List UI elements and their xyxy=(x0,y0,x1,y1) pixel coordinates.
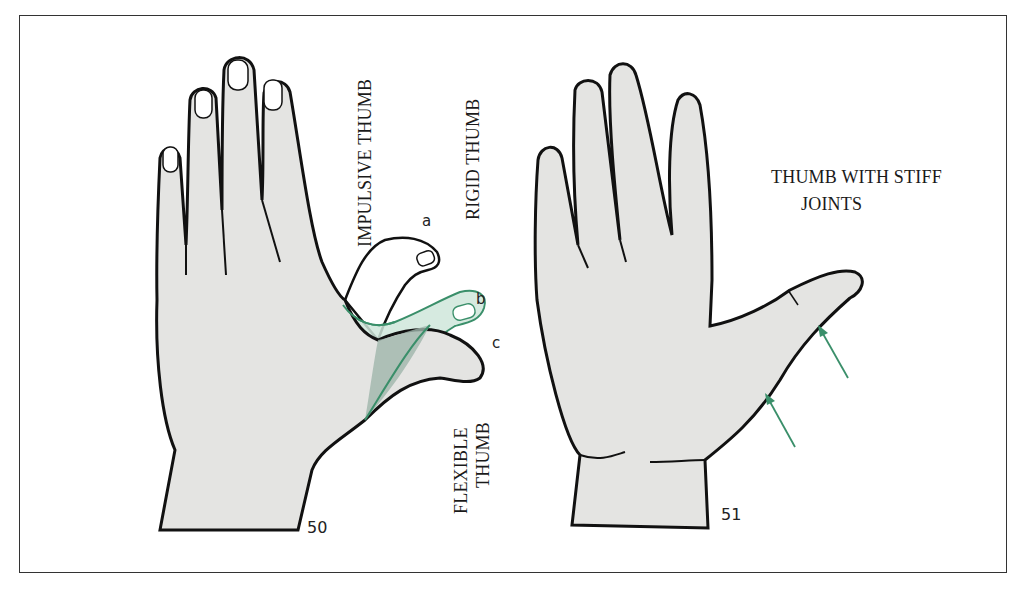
right-hand xyxy=(535,64,862,528)
thumb-position-b: b xyxy=(476,290,486,308)
stiff-joint-arrow-upper xyxy=(818,325,848,378)
label-flexible: FLEXIBLE xyxy=(451,427,472,514)
figure-number-50: 50 xyxy=(307,518,327,537)
thumb-position-a: a xyxy=(422,212,431,230)
thumb-position-c: c xyxy=(492,334,500,352)
stiff-joint-arrow-lower xyxy=(765,393,795,447)
left-hand xyxy=(157,58,485,530)
right-palm xyxy=(535,64,862,528)
left-palm xyxy=(157,58,483,530)
label-rigid-thumb: RIGID THUMB xyxy=(463,99,484,220)
hand-illustrations xyxy=(0,0,1026,590)
label-stiff-joints-line1: THUMB WITH STIFF xyxy=(771,167,942,188)
label-stiff-joints-line2: JOINTS xyxy=(801,194,862,215)
figure-number-51: 51 xyxy=(721,505,741,524)
label-impulsive-thumb: IMPULSIVE THUMB xyxy=(355,79,376,247)
label-flexible-thumb: THUMB xyxy=(473,422,494,488)
